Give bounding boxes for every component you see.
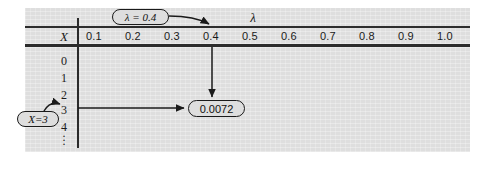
column-header-7: 0.8 bbox=[350, 30, 384, 42]
column-header-9: 1.0 bbox=[428, 30, 462, 42]
row-label-2: 2 bbox=[56, 88, 72, 103]
column-header-4: 0.5 bbox=[233, 30, 267, 42]
callout-x-value: X=3 bbox=[17, 111, 59, 127]
row-label-1: 1 bbox=[56, 71, 72, 86]
lambda-axis-label: λ bbox=[243, 10, 263, 26]
header-rule-top bbox=[25, 26, 470, 28]
column-header-1: 0.2 bbox=[116, 30, 150, 42]
column-header-5: 0.6 bbox=[272, 30, 306, 42]
figure-canvas: λ X 0.1 0.2 0.3 0.4 0.5 0.6 0.7 0.8 0.9 … bbox=[0, 0, 488, 169]
row-label-0: 0 bbox=[56, 54, 72, 69]
header-rule-bottom bbox=[25, 44, 470, 47]
ellipsis-dot-3: . bbox=[56, 139, 72, 143]
column-header-8: 0.9 bbox=[389, 30, 423, 42]
column-header-6: 0.7 bbox=[311, 30, 345, 42]
callout-lambda-value: λ = 0.4 bbox=[112, 9, 169, 25]
column-header-0: 0.1 bbox=[77, 30, 111, 42]
callout-result-value: 0.0072 bbox=[188, 100, 245, 117]
column-header-2: 0.3 bbox=[155, 30, 189, 42]
x-column-header: X bbox=[56, 29, 72, 45]
column-header-3: 0.4 bbox=[194, 30, 228, 42]
row-continuation-ellipsis: . . . bbox=[56, 131, 72, 143]
